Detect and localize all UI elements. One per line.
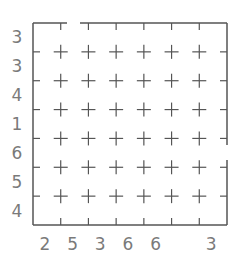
grid-crosses: [33, 23, 227, 225]
row-clue: 3: [12, 58, 23, 75]
column-clue: 5: [67, 236, 78, 253]
puzzle-board: 3341654253663: [0, 0, 241, 267]
row-clue: 3: [12, 29, 23, 46]
row-clue: 6: [12, 144, 23, 161]
row-clue: 4: [12, 202, 23, 219]
column-clue: 3: [206, 236, 217, 253]
column-clue: 6: [123, 236, 134, 253]
column-clue: 3: [95, 236, 106, 253]
column-clue: 6: [150, 236, 161, 253]
column-clue: 2: [39, 236, 50, 253]
grid-svg: [0, 0, 241, 267]
row-clue: 4: [12, 87, 23, 104]
row-clue: 5: [12, 173, 23, 190]
grid-border: [33, 23, 227, 225]
row-clue: 1: [12, 116, 23, 133]
